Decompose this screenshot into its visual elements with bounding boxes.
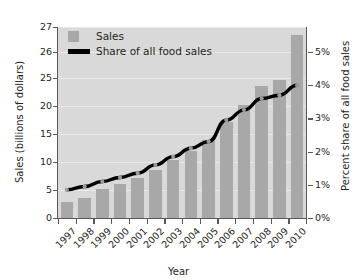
bar — [131, 178, 144, 218]
x-axis-tick — [200, 219, 201, 224]
y-axis-left-tick-label: 26 — [24, 47, 52, 57]
bar — [149, 170, 162, 218]
x-axis-tick — [182, 219, 183, 224]
y-axis-right-tick — [308, 185, 313, 186]
y-axis-left-tick-label: 10 — [24, 157, 52, 167]
y-axis-right-tick — [308, 118, 313, 119]
bar — [96, 189, 109, 218]
gridline — [58, 27, 306, 28]
x-axis-tick — [93, 219, 94, 224]
x-axis-tick — [253, 219, 254, 224]
bar — [220, 122, 233, 218]
y-axis-left-tick — [53, 27, 58, 28]
y-axis-right-tick-label: 3% — [315, 113, 339, 123]
bar — [78, 198, 91, 218]
x-axis-tick — [306, 219, 307, 224]
bar — [255, 86, 268, 218]
y-axis-title: Sales (billions of dollars) — [14, 60, 25, 182]
y-axis-left-tick — [53, 190, 58, 191]
bar — [273, 80, 286, 218]
legend-swatch-sales — [68, 31, 79, 42]
legend-entry-share: Share of all food sales — [68, 46, 228, 58]
y-axis-right-tick-label: 0% — [315, 213, 339, 223]
bar — [291, 35, 304, 219]
y-axis-left-tick — [53, 162, 58, 163]
y-axis-right-tick — [308, 52, 313, 53]
y-axis-left-tick-label: 5 — [24, 185, 52, 195]
y-axis-right-line — [306, 27, 307, 219]
y2-axis-title: Percent share of all food sales — [340, 40, 351, 190]
y-axis-left-tick — [53, 52, 58, 53]
legend-label-share: Share of all food sales — [96, 45, 212, 57]
y-axis-left-tick-label: 15 — [24, 129, 52, 139]
x-axis-tick — [235, 219, 236, 224]
y-axis-left-tick-label: 27 — [24, 22, 52, 32]
legend-entry-sales: Sales — [68, 31, 228, 43]
gridline — [58, 134, 306, 135]
legend-swatch-share — [68, 49, 90, 54]
x-axis-tick — [111, 219, 112, 224]
y-axis-right-tick — [308, 152, 313, 153]
y-axis-left-tick-label: 20 — [24, 101, 52, 111]
chart-legend: SalesShare of all food sales — [68, 31, 228, 61]
bar — [202, 140, 215, 218]
x-axis-tick — [76, 219, 77, 224]
gridline — [58, 78, 306, 79]
legend-label-sales: Sales — [96, 30, 124, 42]
y-axis-left-tick — [53, 78, 58, 79]
chart-container: 051015202526270%1%2%3%4%5%19971998199920… — [0, 0, 359, 280]
x-axis-tick — [271, 219, 272, 224]
x-axis-title: Year — [168, 266, 189, 277]
bar — [114, 184, 127, 218]
bar — [185, 151, 198, 218]
bar — [167, 160, 180, 218]
y-axis-right-tick — [308, 218, 313, 219]
gridline — [58, 106, 306, 107]
y-axis-right-tick-label: 5% — [315, 47, 339, 57]
y-axis-left-tick-label: 25 — [24, 73, 52, 83]
x-axis-tick — [129, 219, 130, 224]
x-axis-tick — [288, 219, 289, 224]
y-axis-left-tick — [53, 134, 58, 135]
x-axis-tick — [58, 219, 59, 224]
bar — [61, 202, 74, 218]
y-axis-right-tick-label: 2% — [315, 147, 339, 157]
y-axis-right-tick-label: 1% — [315, 180, 339, 190]
y-axis-right-tick-label: 4% — [315, 80, 339, 90]
y-axis-right-tick — [308, 85, 313, 86]
y-axis-left-tick — [53, 106, 58, 107]
x-axis-tick — [147, 219, 148, 224]
y-axis-left-tick-label: 0 — [24, 213, 52, 223]
gridline — [58, 162, 306, 163]
x-axis-tick — [164, 219, 165, 224]
bar — [238, 105, 251, 218]
x-axis-tick — [217, 219, 218, 224]
